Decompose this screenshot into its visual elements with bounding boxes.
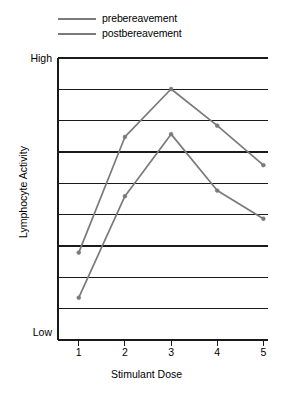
x-axis-tick-5: 5 bbox=[253, 346, 273, 358]
chart-figure: prebereavement postbereavement High Low … bbox=[0, 0, 293, 399]
x-axis-tick-2: 2 bbox=[115, 346, 135, 358]
x-axis-tick-4: 4 bbox=[207, 346, 227, 358]
chart-plot-area bbox=[0, 0, 293, 399]
x-axis-tick-1: 1 bbox=[69, 346, 89, 358]
x-axis-tick-3: 3 bbox=[161, 346, 181, 358]
